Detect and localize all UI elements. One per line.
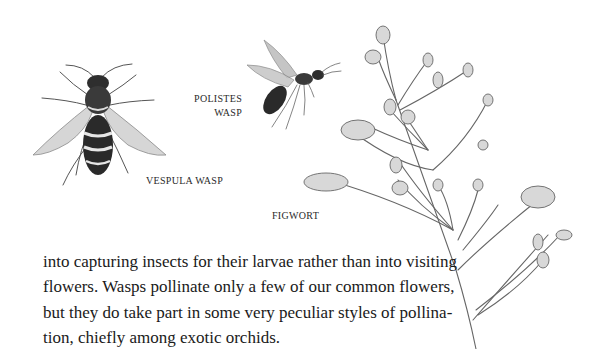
figwort-caption: FIGWORT	[272, 209, 319, 223]
body-paragraph: into capturing insects for their larvae …	[43, 249, 443, 349]
book-page: POLISTES WASP VESPULA WASP FIGWORT into …	[0, 0, 596, 349]
polistes-caption-line2: WASP	[184, 106, 242, 120]
paragraph-line: tion, chiefly among exotic orchids.	[43, 325, 443, 349]
polistes-wasp-caption: POLISTES WASP	[184, 92, 242, 120]
paragraph-line: into capturing insects for their larvae …	[43, 249, 443, 274]
vespula-wasp-caption: VESPULA WASP	[146, 174, 223, 188]
vespula-wasp-illustration	[28, 55, 168, 190]
paragraph-line: but they do take part in some very pecul…	[43, 300, 443, 325]
polistes-caption-line1: POLISTES	[184, 92, 242, 106]
paragraph-line: flowers. Wasps pollinate only a few of o…	[43, 274, 443, 299]
